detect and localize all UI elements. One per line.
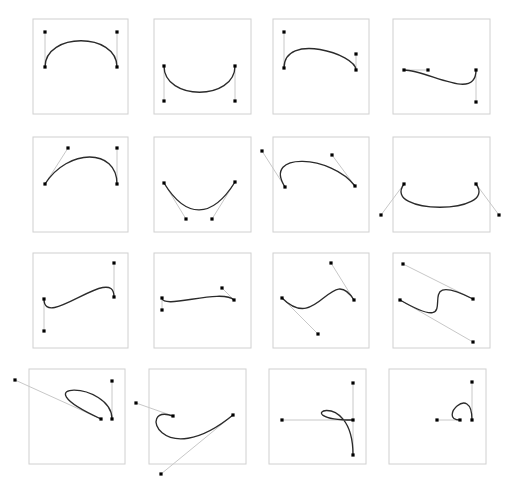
bezier-cell-r2c2 xyxy=(154,137,251,232)
bezier-grid-canvas xyxy=(0,0,524,496)
bezier-cell-r3c4 xyxy=(393,253,490,348)
anchor-start-r3c1[interactable] xyxy=(42,297,45,300)
control-point-1-r1c4[interactable] xyxy=(426,68,429,71)
control-point-2-r2c3[interactable] xyxy=(330,153,333,156)
anchor-start-r2c1[interactable] xyxy=(43,182,46,185)
control-point-1-r2c4[interactable] xyxy=(379,213,382,216)
control-point-2-r4c1[interactable] xyxy=(110,379,113,382)
anchor-start-r2c3[interactable] xyxy=(283,185,286,188)
control-point-2-r1c3[interactable] xyxy=(354,52,357,55)
anchor-start-r3c3[interactable] xyxy=(280,296,283,299)
anchor-start-r3c2[interactable] xyxy=(160,296,163,299)
control-point-1-r2c3[interactable] xyxy=(260,149,263,152)
cell-frame-r4c1 xyxy=(29,369,125,464)
anchor-start-r2c4[interactable] xyxy=(402,182,405,185)
control-point-2-r4c4[interactable] xyxy=(470,380,473,383)
control-point-2-r3c3[interactable] xyxy=(329,261,332,264)
control-point-2-r2c4[interactable] xyxy=(497,213,500,216)
bezier-cell-r3c3 xyxy=(273,253,369,348)
anchor-end-r1c2[interactable] xyxy=(233,64,236,67)
anchor-end-r2c4[interactable] xyxy=(474,182,477,185)
anchor-start-r3c4[interactable] xyxy=(398,298,401,301)
anchor-start-r1c2[interactable] xyxy=(162,64,165,67)
anchor-end-r4c4[interactable] xyxy=(470,418,473,421)
control-point-2-r3c1[interactable] xyxy=(112,261,115,264)
anchor-end-r2c1[interactable] xyxy=(115,182,118,185)
control-point-1-r2c2[interactable] xyxy=(184,217,187,220)
bezier-cells-layer xyxy=(13,19,500,476)
anchor-end-r3c1[interactable] xyxy=(112,295,115,298)
control-point-1-r4c1[interactable] xyxy=(13,378,16,381)
bezier-cell-r1c4 xyxy=(393,19,490,114)
anchor-start-r4c1[interactable] xyxy=(99,417,102,420)
anchor-end-r1c1[interactable] xyxy=(115,65,118,68)
cell-frame-r2c1 xyxy=(33,137,128,232)
bezier-cell-r4c3 xyxy=(269,369,366,464)
control-point-2-r3c2[interactable] xyxy=(220,286,223,289)
bezier-cell-r1c2 xyxy=(154,19,251,114)
cell-frame-r1c1 xyxy=(33,19,128,114)
control-point-1-r3c1[interactable] xyxy=(42,329,45,332)
control-point-1-r4c3[interactable] xyxy=(280,418,283,421)
control-point-1-r1c3[interactable] xyxy=(282,30,285,33)
control-point-2-r1c4[interactable] xyxy=(474,100,477,103)
anchor-start-r1c1[interactable] xyxy=(43,65,46,68)
bezier-cell-r3c2 xyxy=(154,253,251,348)
cell-frame-r1c4 xyxy=(393,19,490,114)
bezier-cell-r2c1 xyxy=(33,137,128,232)
anchor-end-r1c3[interactable] xyxy=(354,68,357,71)
control-point-2-r3c4[interactable] xyxy=(401,262,404,265)
control-point-2-r4c2[interactable] xyxy=(159,472,162,475)
anchor-end-r2c2[interactable] xyxy=(233,180,236,183)
control-point-1-r2c1[interactable] xyxy=(66,146,69,149)
anchor-start-r4c2[interactable] xyxy=(171,414,174,417)
bezier-cell-r1c3 xyxy=(273,19,369,114)
bezier-cell-r1c1 xyxy=(33,19,128,114)
anchor-end-r3c3[interactable] xyxy=(352,298,355,301)
control-point-1-r3c4[interactable] xyxy=(471,340,474,343)
control-point-1-r3c2[interactable] xyxy=(160,308,163,311)
cell-frame-r3c4 xyxy=(393,253,490,348)
anchor-end-r4c2[interactable] xyxy=(231,413,234,416)
bezier-cell-r2c3 xyxy=(260,137,369,232)
anchor-start-r2c2[interactable] xyxy=(162,181,165,184)
bezier-cell-r3c1 xyxy=(33,253,128,348)
control-point-1-r3c3[interactable] xyxy=(316,332,319,335)
cell-frame-r3c2 xyxy=(154,253,251,348)
bezier-cell-r2c4 xyxy=(379,137,500,232)
control-point-1-r4c2[interactable] xyxy=(134,401,137,404)
anchor-start-r1c4[interactable] xyxy=(402,68,405,71)
control-point-1-r4c4[interactable] xyxy=(435,418,438,421)
anchor-end-r1c4[interactable] xyxy=(474,68,477,71)
control-point-2-r2c1[interactable] xyxy=(115,146,118,149)
control-point-2-r1c2[interactable] xyxy=(233,99,236,102)
anchor-end-r4c1[interactable] xyxy=(110,417,113,420)
control-point-1-r1c1[interactable] xyxy=(43,30,46,33)
anchor-start-r4c3[interactable] xyxy=(351,418,354,421)
control-point-2-r2c2[interactable] xyxy=(210,217,213,220)
anchor-end-r4c3[interactable] xyxy=(351,453,354,456)
anchor-end-r2c3[interactable] xyxy=(353,184,356,187)
anchor-start-r4c4[interactable] xyxy=(458,418,461,421)
bezier-cell-r4c2 xyxy=(134,369,246,476)
bezier-cell-r4c1 xyxy=(13,369,125,464)
bezier-cell-r4c4 xyxy=(389,369,486,464)
anchor-end-r3c2[interactable] xyxy=(232,298,235,301)
control-point-1-r1c2[interactable] xyxy=(162,99,165,102)
anchor-end-r3c4[interactable] xyxy=(471,297,474,300)
cell-frame-r2c2 xyxy=(154,137,251,232)
control-point-2-r1c1[interactable] xyxy=(115,30,118,33)
bezier-grid-figure xyxy=(0,0,524,496)
anchor-start-r1c3[interactable] xyxy=(282,66,285,69)
control-point-2-r4c3[interactable] xyxy=(351,381,354,384)
